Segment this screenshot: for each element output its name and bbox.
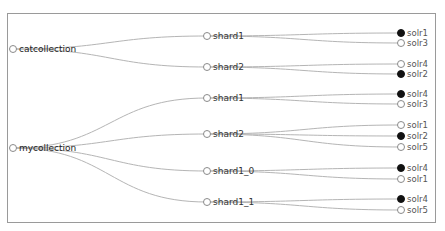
- shard-node-label: shard2: [213, 62, 244, 72]
- leader-node-icon[interactable]: [398, 91, 405, 98]
- replica-node-icon[interactable]: [398, 101, 405, 108]
- collection-node-label: mycollection: [19, 143, 76, 153]
- shard-node-label: shard1: [213, 93, 244, 103]
- shard-node[interactable]: shard1: [204, 93, 244, 103]
- leader-node-icon[interactable]: [398, 165, 405, 172]
- replica-node-icon[interactable]: [398, 40, 405, 47]
- leader-node-icon[interactable]: [398, 30, 405, 37]
- shard-node-label: shard1: [213, 31, 244, 41]
- graph-links: [13, 33, 401, 210]
- shard-node-label: shard2: [213, 129, 244, 139]
- replica-node-icon[interactable]: [204, 95, 211, 102]
- replica-node[interactable]: solr2: [398, 69, 428, 79]
- leader-node-icon[interactable]: [398, 133, 405, 140]
- replica-node[interactable]: solr1: [398, 174, 428, 184]
- leader-node-icon[interactable]: [398, 196, 405, 203]
- replica-node-icon[interactable]: [398, 122, 405, 129]
- shard-node[interactable]: shard2: [204, 62, 244, 72]
- replica-node-icon[interactable]: [398, 207, 405, 214]
- collection-node-label: catcollection: [19, 44, 76, 54]
- replica-node[interactable]: solr1: [398, 120, 428, 130]
- replica-node-label: solr4: [407, 163, 428, 173]
- replica-node[interactable]: solr3: [398, 99, 428, 109]
- collection-node[interactable]: catcollection: [10, 44, 77, 54]
- replica-node-label: solr2: [407, 69, 428, 79]
- replica-node-icon[interactable]: [204, 64, 211, 71]
- replica-node-label: solr1: [407, 120, 428, 130]
- graph-nodes: catcollectionshard1solr1solr3shard2solr4…: [10, 28, 428, 215]
- replica-node-label: solr3: [407, 99, 428, 109]
- replica-node-label: solr4: [407, 59, 428, 69]
- replica-node[interactable]: solr3: [398, 38, 428, 48]
- replica-node[interactable]: solr4: [398, 89, 428, 99]
- replica-node[interactable]: solr4: [398, 163, 428, 173]
- shard-node[interactable]: shard2: [204, 129, 244, 139]
- replica-node-icon[interactable]: [204, 131, 211, 138]
- replica-node-label: solr2: [407, 131, 428, 141]
- replica-node-icon[interactable]: [10, 46, 17, 53]
- replica-node-label: solr1: [407, 28, 428, 38]
- graph-link: [13, 148, 207, 202]
- replica-node[interactable]: solr5: [398, 142, 428, 152]
- replica-node[interactable]: solr5: [398, 205, 428, 215]
- collection-node[interactable]: mycollection: [10, 143, 77, 153]
- leader-node-icon[interactable]: [398, 71, 405, 78]
- replica-node-icon[interactable]: [398, 144, 405, 151]
- replica-node[interactable]: solr1: [398, 28, 428, 38]
- cloud-graph: catcollectionshard1solr1solr3shard2solr4…: [0, 0, 445, 231]
- replica-node-label: solr5: [407, 205, 428, 215]
- replica-node-label: solr4: [407, 89, 428, 99]
- replica-node[interactable]: solr4: [398, 194, 428, 204]
- replica-node-label: solr3: [407, 38, 428, 48]
- shard-node[interactable]: shard1: [204, 31, 244, 41]
- replica-node[interactable]: solr4: [398, 59, 428, 69]
- replica-node-icon[interactable]: [10, 145, 17, 152]
- replica-node-icon[interactable]: [204, 168, 211, 175]
- shard-node-label: shard1_1: [213, 197, 254, 207]
- replica-node-label: solr5: [407, 142, 428, 152]
- replica-node-icon[interactable]: [398, 176, 405, 183]
- replica-node[interactable]: solr2: [398, 131, 428, 141]
- replica-node-label: solr4: [407, 194, 428, 204]
- shard-node-label: shard1_0: [213, 166, 254, 176]
- replica-node-icon[interactable]: [204, 33, 211, 40]
- replica-node-icon[interactable]: [398, 61, 405, 68]
- replica-node-label: solr1: [407, 174, 428, 184]
- replica-node-icon[interactable]: [204, 199, 211, 206]
